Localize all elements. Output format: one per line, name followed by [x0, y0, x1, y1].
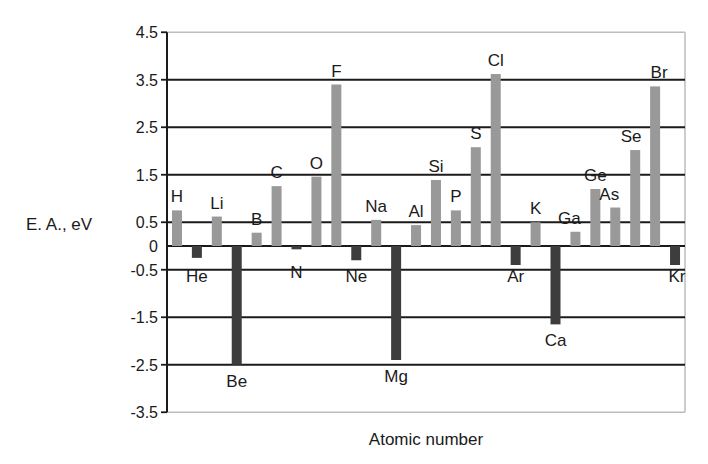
bar-label-ga: Ga	[558, 209, 581, 228]
bar-label-ge: Ge	[584, 166, 607, 185]
bar-na	[371, 220, 381, 246]
y-tick-label: -1.5	[130, 309, 158, 326]
bar-f	[331, 85, 341, 247]
y-tick-label: 1.5	[136, 167, 158, 184]
bar-series	[172, 74, 680, 365]
bar-kr	[670, 246, 680, 265]
bar-label-f: F	[331, 62, 341, 81]
bar-labels: HHeLiBeBCNOFNeNaMgAlSiPSClArKCaGaGeAsSeB…	[171, 51, 686, 391]
bar-he	[192, 246, 202, 258]
y-tick-label: -3.5	[130, 404, 158, 421]
y-axis: 4.53.52.51.50.50-0.5-1.5-2.5-3.5	[130, 24, 167, 421]
bar-label-ne: Ne	[345, 267, 367, 286]
y-tick-label: 0	[149, 238, 158, 255]
y-tick-label: 2.5	[136, 119, 158, 136]
bar-s	[471, 147, 481, 246]
bar-label-cl: Cl	[488, 51, 504, 70]
bar-b	[252, 233, 262, 246]
y-tick-label: 3.5	[136, 72, 158, 89]
bar-mg	[391, 246, 401, 360]
bar-ga	[570, 232, 580, 246]
bar-h	[172, 210, 182, 246]
bar-label-ar: Ar	[507, 267, 524, 286]
x-axis-title: Atomic number	[369, 430, 484, 449]
bar-ar	[511, 246, 521, 265]
bar-label-s: S	[470, 124, 481, 143]
bar-label-be: Be	[226, 372, 247, 391]
bar-o	[311, 177, 321, 246]
bar-label-si: Si	[428, 157, 443, 176]
bar-label-mg: Mg	[384, 367, 408, 386]
bar-ca	[551, 246, 561, 324]
bar-label-ca: Ca	[545, 331, 567, 350]
electron-affinity-chart: 4.53.52.51.50.50-0.5-1.5-2.5-3.5 HHeLiBe…	[0, 0, 708, 464]
y-tick-label: -0.5	[130, 262, 158, 279]
y-tick-label: 0.5	[136, 214, 158, 231]
bar-label-br: Br	[651, 63, 668, 82]
bar-label-p: P	[450, 187, 461, 206]
bar-label-kr: Kr	[669, 267, 686, 286]
bar-be	[232, 246, 242, 365]
bar-n	[292, 246, 302, 249]
gridlines	[167, 80, 685, 365]
y-tick-label: 4.5	[136, 24, 158, 41]
bar-label-as: As	[599, 185, 619, 204]
bar-label-li: Li	[210, 194, 223, 213]
bar-al	[411, 225, 421, 246]
bar-label-k: K	[530, 199, 542, 218]
bar-se	[630, 150, 640, 246]
bar-label-se: Se	[621, 127, 642, 146]
bar-si	[431, 180, 441, 246]
bar-label-n: N	[290, 263, 302, 282]
bar-as	[610, 208, 620, 246]
bar-label-he: He	[186, 267, 208, 286]
bar-label-na: Na	[365, 197, 387, 216]
bar-label-c: C	[270, 163, 282, 182]
bar-label-al: Al	[408, 202, 423, 221]
y-tick-label: -2.5	[130, 357, 158, 374]
bar-p	[451, 210, 461, 246]
bar-br	[650, 86, 660, 246]
bar-c	[272, 186, 282, 246]
bar-label-o: O	[310, 154, 323, 173]
bar-label-h: H	[171, 187, 183, 206]
bar-li	[212, 217, 222, 246]
bar-cl	[491, 74, 501, 246]
bar-ne	[351, 246, 361, 260]
y-axis-title: E. A., eV	[26, 215, 93, 234]
bar-label-b: B	[251, 210, 262, 229]
bar-k	[531, 222, 541, 246]
